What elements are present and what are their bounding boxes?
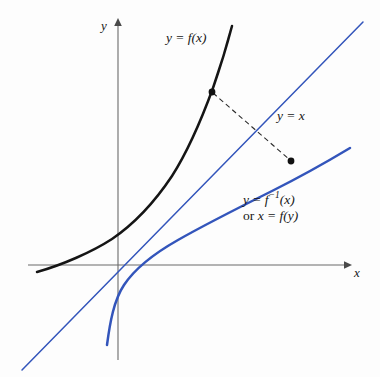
label-f-inverse-exponent: −1: [269, 190, 280, 200]
x-axis-arrowhead: [344, 261, 352, 269]
point-on-f-inverse-marker: [288, 158, 295, 165]
label-f-inverse-line1: y = f−1(x): [243, 190, 298, 208]
label-identity-line: y = x: [277, 108, 305, 125]
label-f-inverse-suffix: (x): [280, 192, 295, 207]
y-axis-arrowhead: [114, 18, 122, 26]
x-axis-label: x: [354, 265, 360, 281]
y-axis-label: y: [101, 18, 107, 34]
figure-canvas: [0, 0, 380, 377]
label-f-inverse-line2: or x = f(y): [243, 208, 298, 225]
point-on-f-marker: [209, 89, 216, 96]
reflection-dashed-connector: [213, 93, 290, 160]
figure-container: y = f(x) y = x y = f−1(x) or x = f(y) y …: [0, 0, 380, 377]
identity-line-y-equals-x: [22, 22, 363, 370]
label-function-f-inverse: y = f−1(x) or x = f(y): [243, 190, 298, 225]
label-f-inverse-or: or: [243, 208, 258, 223]
label-f-inverse-prefix: y = f: [243, 192, 269, 207]
label-function-f: y = f(x): [166, 30, 207, 47]
label-f-inverse-alt-form: x = f(y): [258, 208, 299, 223]
curve-function-f: [37, 26, 232, 272]
